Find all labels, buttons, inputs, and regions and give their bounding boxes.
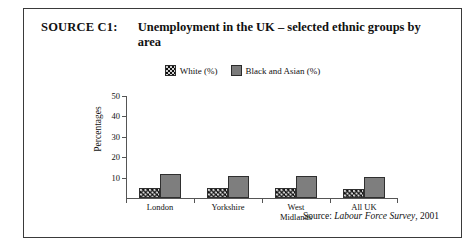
page-title: Unemployment in the UK – selected ethnic… <box>138 20 441 51</box>
bar <box>160 174 181 198</box>
bar <box>207 188 228 198</box>
y-axis-tick <box>122 137 126 138</box>
plot-area: 1020304050LondonYorkshireWest MidlandsAl… <box>126 96 398 199</box>
source-suffix: , 2001 <box>415 211 439 221</box>
y-axis-tick-label: 30 <box>112 132 121 142</box>
y-axis-tick <box>122 157 126 158</box>
source-attribution: Source: Labour Force Survey, 2001 <box>303 211 439 221</box>
bar-group <box>139 96 181 198</box>
y-axis-tick-label: 10 <box>112 173 121 183</box>
legend-label-black-and-asian: Black and Asian (%) <box>246 66 321 76</box>
bar <box>275 188 296 198</box>
y-axis-line <box>126 96 127 199</box>
bar <box>139 188 160 198</box>
x-axis-tick <box>397 199 398 203</box>
bar <box>343 189 364 198</box>
y-axis-tick <box>122 178 126 179</box>
chart-legend: White (%) Black and Asian (%) <box>24 65 461 76</box>
y-axis-tick <box>122 96 126 97</box>
figure-title-block: SOURCE C1: Unemployment in the UK – sele… <box>41 20 441 51</box>
y-axis-tick <box>122 116 126 117</box>
black-dotted-swatch-icon <box>165 65 176 76</box>
legend-item-black-and-asian: Black and Asian (%) <box>231 65 321 76</box>
bar-chart: Percentages 1020304050LondonYorkshireWes… <box>64 79 424 207</box>
gray-swatch-icon <box>231 65 242 76</box>
x-axis-tick <box>330 199 331 203</box>
y-axis-tick-label: 20 <box>112 152 121 162</box>
legend-item-white: White (%) <box>165 65 218 76</box>
y-axis-tick-label: 50 <box>112 91 121 101</box>
bar-group <box>275 96 317 198</box>
legend-label-white: White (%) <box>180 66 218 76</box>
bar-group <box>343 96 385 198</box>
x-axis-category-label: London <box>147 203 173 213</box>
source-publication: Labour Force Survey <box>334 211 415 221</box>
bar <box>228 176 249 198</box>
bar-group <box>207 96 249 198</box>
source-figure-frame: SOURCE C1: Unemployment in the UK – sele… <box>23 8 462 238</box>
source-label: SOURCE C1: <box>41 20 118 35</box>
source-prefix: Source: <box>303 211 332 221</box>
x-axis-tick <box>194 199 195 203</box>
x-axis-category-label: Yorkshire <box>211 203 244 213</box>
bar <box>296 176 317 198</box>
y-axis-tick-label: 40 <box>112 111 121 121</box>
bar <box>364 177 385 198</box>
x-axis-tick <box>262 199 263 203</box>
x-axis-tick <box>126 199 127 203</box>
